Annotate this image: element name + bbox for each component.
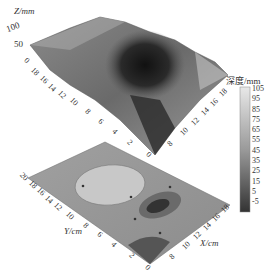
cbar-tick: 85 bbox=[252, 105, 264, 115]
cbar-tick: 5 bbox=[252, 187, 264, 197]
cbar-tick: 25 bbox=[252, 166, 264, 176]
chart-canvas bbox=[0, 0, 274, 277]
y-axis-label: Y/cm bbox=[64, 226, 82, 236]
cbar-tick: 45 bbox=[252, 146, 264, 156]
cbar-tick: 105 bbox=[252, 84, 264, 94]
cbar-tick: 55 bbox=[252, 135, 264, 145]
colorbar bbox=[240, 87, 250, 212]
cbar-tick: 15 bbox=[252, 177, 264, 187]
colorbar-ticks: 105 95 85 75 65 55 45 35 25 15 5 -5 bbox=[252, 84, 264, 208]
cbar-tick: 65 bbox=[252, 125, 264, 135]
z-tick-50: 50 bbox=[14, 39, 23, 49]
cbar-tick: -5 bbox=[252, 197, 264, 207]
z-axis-label: Z/mm bbox=[14, 6, 35, 16]
x-axis-label: X/cm bbox=[200, 238, 219, 248]
surface-3d bbox=[30, 17, 228, 155]
cbar-tick: 95 bbox=[252, 94, 264, 104]
cbar-tick: 75 bbox=[252, 115, 264, 125]
cbar-tick: 35 bbox=[252, 156, 264, 166]
